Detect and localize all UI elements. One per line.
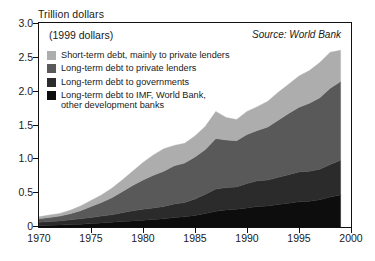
y-axis-tick-label: 0 <box>0 220 33 232</box>
legend-item: Long-term debt to IMF, World Bank, other… <box>47 90 230 110</box>
legend-item: Long-term debt to governments <box>47 77 230 87</box>
chart-source-note: Source: World Bank <box>252 29 341 40</box>
legend-swatch-short-term <box>47 51 56 60</box>
legend-item: Long-term debt to private lenders <box>47 63 230 73</box>
chart-figure: Trillion dollars 00.51.01.52.02.53.0 197… <box>0 0 375 261</box>
x-axis-tick-mark <box>143 228 144 233</box>
legend-item: Short-term debt, mainly to private lende… <box>47 50 230 60</box>
x-axis-tick-label: 1980 <box>131 232 154 244</box>
x-axis-tick-label: 1995 <box>287 232 310 244</box>
legend-item-label: Long-term debt to governments <box>61 77 189 87</box>
legend-item-label: Short-term debt, mainly to private lende… <box>61 50 230 60</box>
x-axis-tick-label: 1990 <box>235 232 258 244</box>
x-axis-tick-mark <box>247 228 248 233</box>
plot-area: (1999 dollars) Source: World Bank Short-… <box>38 22 352 228</box>
x-axis-tick-label: 1975 <box>79 232 102 244</box>
x-axis-tick-mark <box>299 228 300 233</box>
chart-legend: Short-term debt, mainly to private lende… <box>47 50 230 114</box>
y-axis-tick-label: 3.0 <box>0 17 33 29</box>
legend-swatch-long-term-governments <box>47 78 56 87</box>
y-axis-tick-label: 1.0 <box>0 152 33 164</box>
x-axis-tick-mark <box>351 228 352 233</box>
chart-subtitle: (1999 dollars) <box>49 29 113 41</box>
legend-item-label: Long-term debt to private lenders <box>61 63 196 73</box>
x-axis-tick-label: 1970 <box>27 232 50 244</box>
x-axis-tick-label: 1985 <box>183 232 206 244</box>
x-axis-tick-mark <box>195 228 196 233</box>
y-axis-tick-label: 0.5 <box>0 186 33 198</box>
legend-item-label: Long-term debt to IMF, World Bank, other… <box>61 90 206 110</box>
x-axis-tick-label: 2000 <box>339 232 362 244</box>
x-axis-tick-mark <box>91 228 92 233</box>
y-axis-tick-label: 2.0 <box>0 85 33 97</box>
y-axis-tick-label: 1.5 <box>0 119 33 131</box>
legend-swatch-long-term-private <box>47 64 56 73</box>
legend-swatch-long-term-imf <box>47 91 56 100</box>
y-axis-tick-label: 2.5 <box>0 51 33 63</box>
chart-axis-title: Trillion dollars <box>38 8 104 20</box>
